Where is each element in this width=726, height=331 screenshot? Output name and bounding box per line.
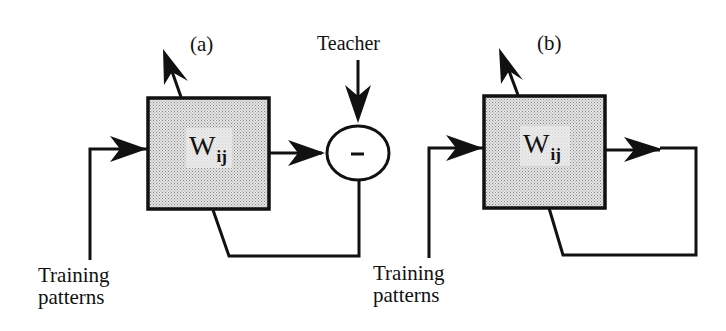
- weight-subscript-a: ij: [216, 147, 226, 166]
- input-line-a: [90, 149, 148, 260]
- panel-a: [90, 49, 389, 260]
- panel-b-label: (b): [537, 33, 562, 54]
- weight-symbol-a: W: [189, 130, 215, 161]
- training-label-b-line1: Training: [373, 262, 445, 284]
- training-label-a-line1: Training: [38, 264, 110, 286]
- teacher-label: Teacher: [317, 33, 380, 53]
- weight-symbol-b: W: [523, 128, 549, 159]
- panel-a-label: (a): [190, 34, 213, 55]
- weight-subscript-b: ij: [550, 145, 560, 164]
- training-label-b-line2: patterns: [373, 284, 445, 306]
- weight-matrix-label-a: Wij: [189, 132, 227, 165]
- weight-matrix-label-b: Wij: [523, 130, 561, 163]
- learning-diagram: (a) Wij Teacher Training patterns (b) Wi…: [0, 0, 726, 331]
- training-label-a-line2: patterns: [38, 286, 110, 308]
- training-patterns-label-a: Training patterns: [38, 264, 110, 308]
- panel-b: [429, 48, 696, 258]
- training-patterns-label-b: Training patterns: [373, 262, 445, 306]
- input-line-b: [429, 148, 484, 258]
